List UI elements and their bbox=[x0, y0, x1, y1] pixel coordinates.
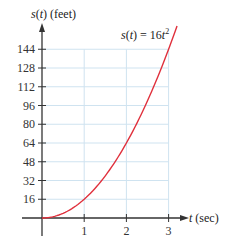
x-axis-label: t (sec) bbox=[189, 211, 219, 225]
curve-line bbox=[42, 26, 177, 218]
position-time-chart: s(t) (feet) t (sec) s(t) = 16t2 123 1632… bbox=[0, 0, 226, 246]
y-tick-label: 96 bbox=[23, 99, 35, 113]
x-axis-arrow-icon bbox=[180, 215, 189, 221]
y-axis-arrow-icon bbox=[39, 23, 45, 32]
y-tick-label: 144 bbox=[17, 42, 35, 56]
y-tick-label: 80 bbox=[23, 117, 35, 131]
grid-lines bbox=[42, 49, 169, 218]
x-tick-label: 2 bbox=[123, 224, 129, 238]
y-tick-label: 48 bbox=[23, 155, 35, 169]
tick-marks bbox=[38, 49, 169, 222]
y-tick-label: 64 bbox=[23, 136, 35, 150]
y-tick-label: 32 bbox=[23, 174, 35, 188]
y-tick-label: 112 bbox=[17, 80, 35, 94]
x-tick-labels: 123 bbox=[81, 224, 171, 238]
equation-annotation: s(t) = 16t2 bbox=[121, 27, 169, 42]
y-tick-labels: 163248648096112128144 bbox=[17, 42, 35, 206]
x-tick-label: 1 bbox=[81, 224, 87, 238]
x-tick-label: 3 bbox=[166, 224, 172, 238]
axes bbox=[22, 23, 189, 236]
y-tick-label: 16 bbox=[23, 192, 35, 206]
y-axis-label: s(t) (feet) bbox=[31, 7, 76, 21]
y-tick-label: 128 bbox=[17, 61, 35, 75]
